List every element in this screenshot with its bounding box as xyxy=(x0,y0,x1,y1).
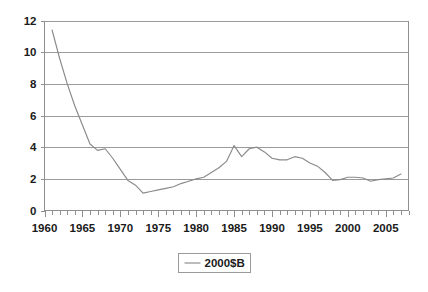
x-tick-label: 1975 xyxy=(145,222,171,234)
x-tick-label: 1965 xyxy=(70,222,96,234)
y-tick-label: 2 xyxy=(30,173,36,185)
chart-legend: 2000$B xyxy=(179,254,251,273)
x-tick-label: 1990 xyxy=(259,222,285,234)
y-tick-label: 0 xyxy=(30,205,36,217)
y-tick-label: 8 xyxy=(30,78,37,90)
x-tick-label: 2005 xyxy=(373,222,399,234)
legend-entry-label: 2000$B xyxy=(205,257,245,269)
x-tick-label: 1960 xyxy=(32,222,58,234)
x-tick-label: 1970 xyxy=(108,222,134,234)
y-tick-label: 12 xyxy=(24,15,37,27)
y-tick-label: 6 xyxy=(30,110,36,122)
x-tick-label: 1995 xyxy=(297,222,323,234)
x-tick-label: 1985 xyxy=(221,222,247,234)
x-tick-label: 1980 xyxy=(183,222,209,234)
line-chart: 121086420 196019651970197519801985199019… xyxy=(0,0,428,292)
y-tick-label: 4 xyxy=(30,141,37,153)
x-tick-label: 2000 xyxy=(335,222,361,234)
chart-background xyxy=(0,0,428,292)
chart-container: 121086420 196019651970197519801985199019… xyxy=(0,0,428,292)
y-tick-label: 10 xyxy=(24,46,37,58)
